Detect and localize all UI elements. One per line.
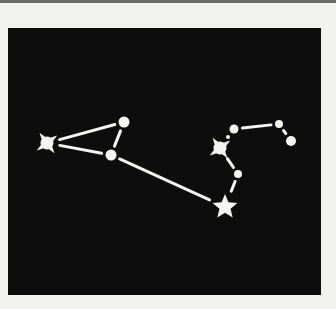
constellation-line: [231, 181, 235, 191]
constellation-line: [227, 159, 233, 168]
star-burst-icon: [37, 133, 57, 153]
constellation-line: [120, 159, 210, 200]
constellation-panel: [8, 28, 321, 295]
constellation-line: [114, 131, 120, 146]
star-burst-icon: [210, 138, 230, 158]
top-border-strip: [0, 0, 336, 3]
star-dot-icon: [286, 136, 296, 146]
star-dot-icon: [106, 150, 117, 161]
star-dot-icon: [234, 170, 242, 178]
constellation-diagram: [8, 28, 321, 295]
star-dot-icon: [119, 117, 130, 128]
star-dot-icon: [226, 135, 230, 139]
star-five-point-icon: [213, 194, 238, 218]
constellation-line: [284, 131, 286, 134]
constellation-line: [60, 145, 102, 153]
star-dot-icon: [275, 120, 283, 128]
constellation-line: [242, 125, 271, 128]
star-dot-icon: [230, 125, 239, 134]
constellation-line: [60, 124, 115, 139]
